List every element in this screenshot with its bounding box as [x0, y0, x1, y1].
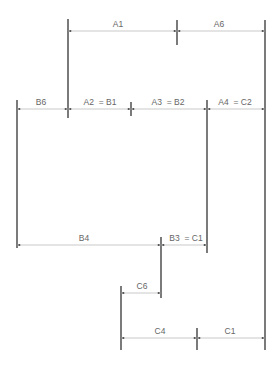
- label-c6: C6: [137, 281, 148, 291]
- label-a2-b1: A2 = B1: [84, 97, 117, 107]
- dimension-diagram: A1 A6 B6 A2 = B1 A3 = B2 A4 = C2 B4 B3 =…: [0, 0, 279, 369]
- label-a4-c2: A4 = C2: [218, 97, 252, 107]
- label-b4: B4: [79, 233, 90, 243]
- label-a1: A1: [113, 19, 124, 29]
- label-b6: B6: [36, 97, 47, 107]
- label-a3-b2: A3 = B2: [152, 97, 185, 107]
- label-a6: A6: [214, 19, 225, 29]
- label-b3-c1: B3 = C1: [169, 233, 203, 243]
- label-c1: C1: [225, 326, 236, 336]
- label-c4: C4: [155, 326, 166, 336]
